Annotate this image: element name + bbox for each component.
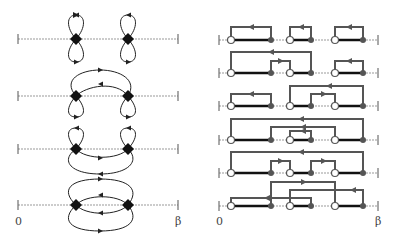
right-axis-end-label: β bbox=[375, 215, 381, 228]
right-axis-start-label: 0 bbox=[216, 215, 223, 228]
left-diagram bbox=[0, 0, 200, 244]
left-axis-end-label: β bbox=[175, 215, 181, 228]
left-axis-start-label: 0 bbox=[15, 215, 22, 228]
